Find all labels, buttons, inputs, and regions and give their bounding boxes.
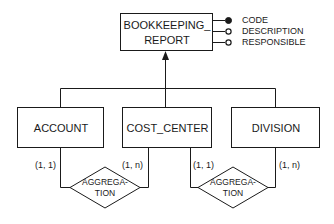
relationship-label-line2: TION xyxy=(203,188,263,199)
relationship-label-1: AGGREGA- TION xyxy=(75,177,135,199)
entity-account: ACCOUNT xyxy=(18,108,104,148)
cardinality-account: (1, 1) xyxy=(35,160,56,170)
cardinality-division: (1, n) xyxy=(279,160,300,170)
identifier-attribute-icon xyxy=(226,18,232,24)
cardinality-cost-center: (1, n) xyxy=(122,160,143,170)
generalization-connector xyxy=(61,58,276,108)
entity-label-line2: REPORT xyxy=(144,33,190,48)
attribute-code: CODE xyxy=(242,15,268,25)
attribute-icon xyxy=(226,29,231,34)
entity-division: DIVISION xyxy=(232,108,320,148)
cardinality-cost-center-2: (1, 1) xyxy=(193,160,214,170)
attribute-icon xyxy=(226,40,231,45)
entity-cost-center: COST_CENTER xyxy=(123,108,212,148)
entity-label-line1: BOOKKEEPING_ xyxy=(124,18,211,33)
attribute-responsible: RESPONSIBLE xyxy=(242,37,306,47)
relationship-label-line1: AGGREGA- xyxy=(75,177,135,188)
arrow-up-icon xyxy=(162,51,169,60)
attribute-connectors xyxy=(213,21,226,43)
attribute-description: DESCRIPTION xyxy=(242,26,304,36)
relationship-label-2: AGGREGA- TION xyxy=(203,177,263,199)
entity-bookkeeping-report: BOOKKEEPING_ REPORT xyxy=(121,14,213,51)
relationship-label-line1: AGGREGA- xyxy=(203,177,263,188)
relationship-label-line2: TION xyxy=(75,188,135,199)
